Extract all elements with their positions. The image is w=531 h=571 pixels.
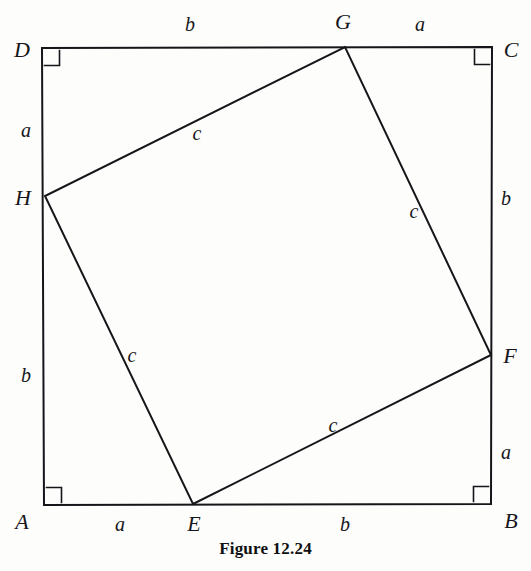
vertex-label-g: G	[335, 11, 351, 33]
inner-square-efgh	[45, 47, 491, 504]
right-angle-mark-b	[474, 487, 489, 502]
vertex-label-e: E	[187, 513, 200, 535]
vertex-label-b: B	[504, 510, 517, 532]
side-label-inner-ef: c	[329, 415, 338, 435]
vertex-label-c: C	[504, 39, 519, 61]
figure-caption: Figure 12.24	[0, 539, 531, 559]
side-label-top-a: a	[415, 14, 425, 34]
right-angle-mark-a	[47, 488, 62, 503]
side-label-inner-he: c	[128, 345, 137, 365]
side-label-bottom-a: a	[115, 514, 125, 534]
side-label-right-a: a	[501, 442, 511, 462]
right-angle-mark-d	[45, 51, 60, 66]
outer-square-abcd	[42, 47, 492, 505]
vertex-label-h: H	[15, 187, 31, 209]
side-label-bottom-b: b	[340, 514, 350, 534]
side-label-left-a: a	[21, 120, 31, 140]
figure-container: DCGHFAEB baabbaabcccc Figure 12.24	[0, 0, 531, 571]
right-angle-mark-c	[475, 50, 490, 65]
side-label-right-b: b	[501, 188, 511, 208]
outer-square-path	[42, 47, 492, 505]
side-label-inner-hg: c	[193, 123, 202, 143]
side-label-inner-gf: c	[410, 201, 419, 221]
inner-square-path	[45, 47, 491, 504]
geometry-drawing	[0, 0, 531, 571]
right-angle-marks	[45, 50, 490, 503]
vertex-label-f: F	[503, 345, 516, 367]
side-label-top-b: b	[185, 14, 195, 34]
vertex-label-d: D	[14, 39, 30, 61]
side-label-left-b: b	[21, 365, 31, 385]
vertex-label-a: A	[15, 511, 28, 533]
